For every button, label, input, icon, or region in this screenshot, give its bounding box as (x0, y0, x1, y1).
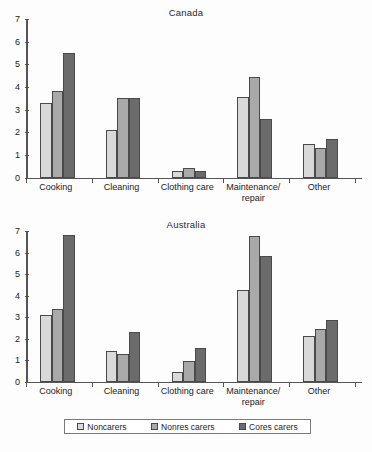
legend-item: Noncarers (77, 422, 126, 432)
bar (260, 119, 272, 178)
category-labels-australia: CookingCleaningClothing careMaintenance/… (26, 383, 356, 413)
bar (303, 336, 315, 381)
bar (326, 139, 338, 177)
y-axis-label-0: 0 (15, 377, 20, 387)
legend-swatch-noncarers (77, 423, 84, 430)
x-axis-label: Cleaning (104, 386, 140, 397)
bar (237, 290, 249, 381)
x-axis-label: Maintenance/ repair (226, 182, 280, 204)
legend-item: Nonres carers (151, 422, 214, 432)
bar (303, 144, 315, 178)
bar (172, 171, 184, 178)
bar (106, 130, 118, 178)
bar (195, 171, 207, 178)
chart-canada: Canada 01234567 CookingCleaningClothing … (0, 0, 372, 210)
bars-area-canada (28, 19, 357, 178)
y-axis-label-2: 2 (15, 127, 20, 137)
x-axis-label: Clothing care (161, 386, 214, 397)
bar (117, 98, 129, 177)
x-axis-label: Other (308, 386, 331, 397)
bar (52, 91, 64, 177)
legend-item: Cores carers (239, 422, 298, 432)
bar (249, 236, 261, 381)
chart-australia: Australia 01234567 CookingCleaningClothi… (0, 212, 372, 408)
bar (40, 103, 52, 178)
bar (237, 97, 249, 177)
x-axis-label: Other (308, 182, 331, 193)
legend-swatch-nonres-carers (151, 423, 158, 430)
y-axis-label-1: 1 (15, 355, 20, 365)
bar-group (40, 19, 75, 178)
bar (106, 351, 118, 381)
bar (63, 53, 75, 178)
y-axis-label-4: 4 (15, 82, 20, 92)
bar (249, 77, 261, 178)
bar (260, 256, 272, 382)
x-axis-label: Cooking (39, 386, 72, 397)
bar-group (106, 231, 141, 382)
y-axis-label-6: 6 (15, 37, 20, 47)
y-axis-label-2: 2 (15, 334, 20, 344)
legend-item-label: Cores carers (249, 422, 298, 432)
bar (52, 309, 64, 381)
bar (129, 98, 141, 177)
bar (183, 168, 195, 177)
bar-group (172, 19, 207, 178)
y-axis-label-0: 0 (15, 173, 20, 183)
bar-group (237, 19, 272, 178)
y-axis-label-5: 5 (15, 59, 20, 69)
bar (315, 329, 327, 382)
y-axis-label-3: 3 (15, 105, 20, 115)
bars-area-australia (28, 231, 357, 382)
category-labels-canada: CookingCleaningClothing careMaintenance/… (26, 179, 356, 209)
chart-title-canada: Canada (0, 0, 372, 19)
bar (129, 332, 141, 381)
figure-page: Canada 01234567 CookingCleaningClothing … (0, 0, 372, 452)
bar-group (106, 19, 141, 178)
bar (40, 315, 52, 382)
bar-group (237, 231, 272, 382)
bar (183, 361, 195, 381)
bar (117, 354, 129, 382)
y-axis-label-7: 7 (15, 14, 20, 24)
bar (63, 235, 75, 381)
bar (172, 372, 184, 382)
legend-item-label: Noncarers (87, 422, 126, 432)
legend-swatch-cores-carers (239, 423, 246, 430)
chart-legend: NoncarersNonres carersCores carers (64, 419, 311, 434)
bar-group (172, 231, 207, 382)
legend-item-label: Nonres carers (161, 422, 214, 432)
bar (326, 320, 338, 381)
chart-title-australia: Australia (0, 212, 372, 231)
y-axis-label-6: 6 (15, 248, 20, 258)
y-axis-label-5: 5 (15, 269, 20, 279)
y-axis-label-7: 7 (15, 226, 20, 236)
bar-group (303, 231, 338, 382)
x-axis-label: Clothing care (161, 182, 214, 193)
bar-group (303, 19, 338, 178)
bar-group (40, 231, 75, 382)
y-axis-label-4: 4 (15, 291, 20, 301)
plot-area-canada: 01234567 (26, 19, 356, 179)
x-axis-label: Cooking (39, 182, 72, 193)
x-axis-label: Maintenance/ repair (226, 386, 280, 408)
bar (315, 148, 327, 177)
bar (195, 348, 207, 381)
x-axis-label: Cleaning (104, 182, 140, 193)
plot-area-australia: 01234567 (26, 231, 356, 383)
y-axis-label-1: 1 (15, 150, 20, 160)
y-axis-label-3: 3 (15, 312, 20, 322)
